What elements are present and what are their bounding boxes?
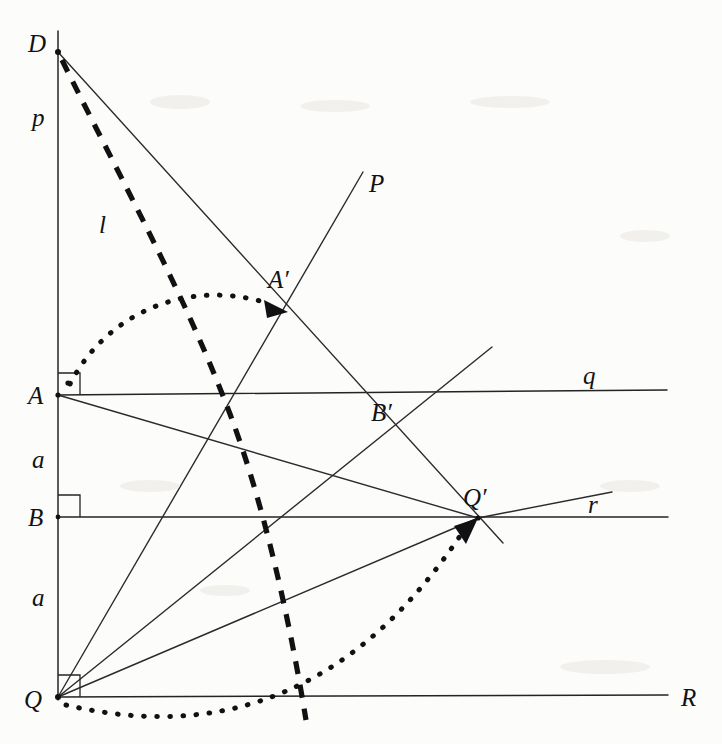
ray-Q-through-Bprime (58, 347, 492, 697)
line-label-q: q (583, 362, 596, 389)
line-A-to-Qprime (58, 395, 478, 518)
point-label-B: B (28, 504, 43, 531)
right-angle-at-B (58, 495, 80, 517)
line-D-to-Qprime (58, 52, 503, 543)
vertex-dots-group (55, 49, 481, 700)
rotation-arc-Q-to-Qprime (66, 536, 460, 717)
dashed-line-l (62, 60, 306, 720)
point-label-Q-prime: Q′ (463, 484, 487, 511)
vertex-dot-D (55, 49, 61, 55)
point-label-A-prime: A′ (266, 266, 289, 293)
line-label-R: R (680, 684, 696, 711)
segment-label-a-lower: a (32, 584, 45, 611)
rotation-arc-Q-arrowhead (454, 518, 478, 544)
line-label-l: l (99, 211, 106, 238)
geometry-canvas: D A B Q A′ B′ Q′ p l P q r R a a (0, 0, 722, 744)
right-angle-markers (58, 373, 80, 697)
line-label-r: r (588, 491, 598, 518)
rotation-arc-A-to-Aprime (70, 295, 270, 384)
ray-Q-through-Aprime-to-P (58, 172, 363, 697)
rotation-arcs-group (66, 295, 478, 716)
point-labels-group: D A B Q A′ B′ Q′ (24, 30, 487, 713)
horizontal-line-R (58, 695, 668, 697)
line-label-P: P (368, 170, 384, 197)
horizontal-line-q (58, 390, 667, 395)
segment-label-a-upper: a (32, 446, 45, 473)
vertex-dot-A (55, 392, 60, 397)
solid-lines-group (58, 31, 668, 700)
point-label-Q: Q (24, 686, 42, 713)
vertex-dot-B (56, 515, 61, 520)
geometry-figure: D A B Q A′ B′ Q′ p l P q r R a a (0, 0, 722, 744)
vertex-dot-Q (55, 694, 61, 700)
point-label-D: D (27, 30, 46, 57)
vertex-dot-Q-prime (475, 515, 480, 520)
point-label-B-prime: B′ (371, 399, 392, 426)
line-label-p: p (30, 104, 45, 131)
dashed-line-l-group (62, 60, 306, 720)
point-label-A: A (26, 382, 44, 409)
